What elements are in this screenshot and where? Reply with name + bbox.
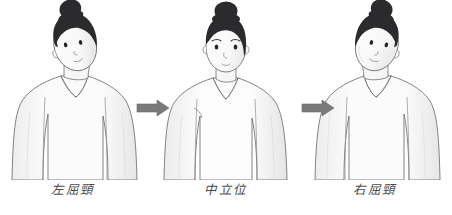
figure-panel-right — [302, 0, 452, 180]
torso-middle — [164, 78, 287, 180]
caption-right-flexion: 右屈頸 — [300, 183, 450, 198]
torso-right — [315, 76, 440, 180]
eye-left — [215, 45, 219, 50]
head-middle — [203, 2, 249, 73]
transition-arrow-1 — [136, 99, 170, 117]
transition-arrow-2 — [301, 99, 335, 117]
illustration-canvas: 左屈頸 中立位 右屈頸 — [0, 0, 452, 215]
caption-neutral: 中立位 — [151, 183, 301, 198]
figure-panel-middle — [151, 0, 301, 180]
eye-right — [234, 45, 238, 50]
head-right — [347, 0, 413, 77]
caption-left-flexion: 左屈頸 — [0, 183, 148, 198]
torso-left — [12, 76, 137, 180]
figure-panel-left — [0, 0, 150, 180]
head-left — [39, 0, 105, 77]
